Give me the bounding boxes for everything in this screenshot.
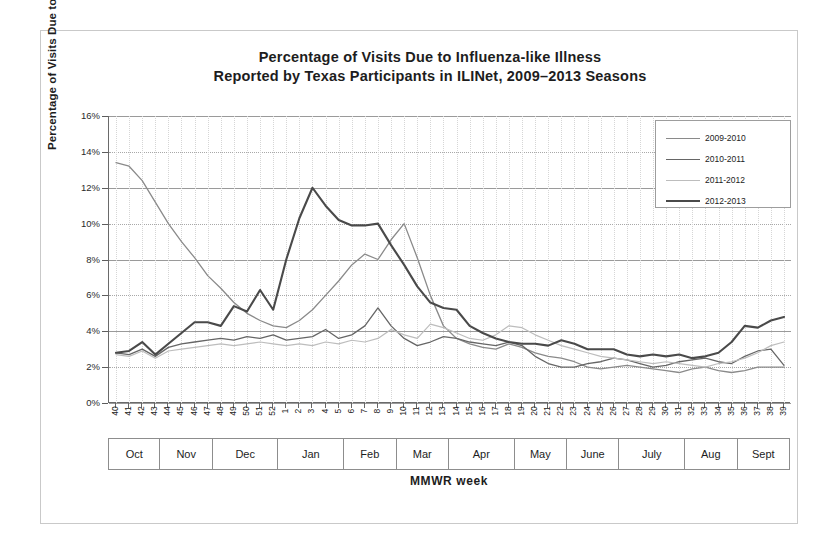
legend-item-2009-2010: 2009-2010 [666,133,746,143]
month-label-nov: Nov [160,439,212,469]
legend-swatch [666,138,700,139]
y-tick-label: 0% [40,397,100,408]
x-week-label: 27 [621,399,631,423]
legend-label: 2010-2011 [705,154,745,164]
x-week-label: 39 [778,399,788,423]
x-week-label: 50 [241,399,251,423]
y-tick-mark [102,116,108,117]
x-axis-title: MMWR week [108,474,790,488]
y-tick-label: 6% [40,289,100,300]
x-week-label: 7 [359,399,369,423]
x-week-label: 43 [149,399,159,423]
legend-swatch [666,180,700,181]
x-week-label: 20 [529,399,539,423]
y-tick-mark [102,295,108,296]
x-week-label: 32 [686,399,696,423]
legend-item-2011-2012: 2011-2012 [666,175,745,185]
x-week-label: 41 [123,399,133,423]
legend-label: 2011-2012 [705,175,745,185]
x-week-label: 4 [320,399,330,423]
x-week-label: 52 [267,399,277,423]
chart-title-line2: Reported by Texas Participants in ILINet… [120,67,740,86]
x-axis-month-band: OctNovDecJanFebMarAprMayJuneJulyAugSept [108,438,790,470]
x-week-label: 40 [110,399,120,423]
x-week-label: 19 [516,399,526,423]
y-tick-label: 8% [40,254,100,265]
y-tick-label: 14% [40,146,100,157]
x-week-label: 36 [739,399,749,423]
x-week-label: 46 [189,399,199,423]
month-label-june: June [567,439,619,469]
x-week-label: 45 [175,399,185,423]
x-week-label: 18 [503,399,513,423]
x-week-label: 22 [555,399,565,423]
x-week-label: 8 [372,399,382,423]
x-week-label: 28 [634,399,644,423]
chart-title: Percentage of Visits Due to Influenza-li… [120,48,740,86]
x-week-label: 14 [451,399,461,423]
x-week-label: 44 [162,399,172,423]
x-week-label: 21 [542,399,552,423]
y-tick-mark [102,152,108,153]
month-label-dec: Dec [213,439,279,469]
month-label-sept: Sept [738,439,790,469]
x-week-label: 2 [293,399,303,423]
x-week-label: 38 [765,399,775,423]
legend-item-2010-2011: 2010-2011 [666,154,745,164]
month-label-feb: Feb [344,439,396,469]
y-axis-title: Percentage of Visits Due to ILI [46,0,58,150]
month-label-mar: Mar [397,439,449,469]
x-axis-week-labels: 4041424344454647484950515212345678910111… [108,403,790,437]
month-label-july: July [620,439,686,469]
legend-label: 2012-2013 [705,196,746,206]
x-week-label: 49 [228,399,238,423]
month-label-may: May [515,439,567,469]
x-week-label: 23 [568,399,578,423]
x-week-label: 13 [437,399,447,423]
x-week-label: 12 [424,399,434,423]
x-week-label: 6 [346,399,356,423]
x-week-label: 34 [713,399,723,423]
x-week-label: 1 [280,399,290,423]
month-label-jan: Jan [279,439,345,469]
chart-screenshot: Percentage of Visits Due to Influenza-li… [0,0,836,552]
x-week-label: 29 [647,399,657,423]
x-week-label: 16 [477,399,487,423]
y-tick-label: 2% [40,361,100,372]
x-week-label: 47 [202,399,212,423]
series-line-2010-2011 [116,308,784,367]
x-week-label: 5 [333,399,343,423]
y-tick-mark [102,367,108,368]
month-label-apr: Apr [449,439,515,469]
x-week-label: 31 [673,399,683,423]
x-week-label: 37 [752,399,762,423]
legend-item-2012-2013: 2012-2013 [666,196,746,206]
y-tick-mark [102,224,108,225]
legend: 2009-20102010-20112011-20122012-2013 [655,120,791,208]
x-week-label: 51 [254,399,264,423]
legend-swatch [666,200,700,202]
x-week-label: 35 [726,399,736,423]
y-tick-mark [102,188,108,189]
legend-swatch [666,159,700,160]
x-week-label: 24 [582,399,592,423]
x-week-label: 9 [385,399,395,423]
y-tick-label: 10% [40,218,100,229]
x-week-label: 30 [660,399,670,423]
y-tick-mark [102,331,108,332]
x-week-label: 42 [136,399,146,423]
y-tick-label: 12% [40,182,100,193]
y-tick-mark [102,260,108,261]
x-week-label: 33 [699,399,709,423]
month-label-aug: Aug [685,439,737,469]
legend-label: 2009-2010 [705,133,746,143]
x-week-label: 25 [595,399,605,423]
x-week-label: 17 [490,399,500,423]
x-week-label: 26 [608,399,618,423]
y-tick-label: 4% [40,325,100,336]
chart-title-line1: Percentage of Visits Due to Influenza-li… [120,48,740,67]
x-week-label: 15 [464,399,474,423]
x-week-label: 10 [398,399,408,423]
month-label-oct: Oct [108,439,160,469]
x-week-label: 48 [215,399,225,423]
